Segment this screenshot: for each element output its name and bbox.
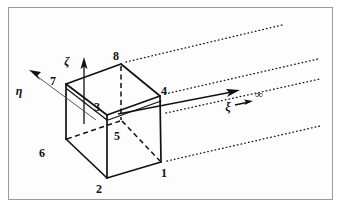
edge-3-7 (66, 84, 107, 115)
xi-to-infinity-arrow (235, 100, 253, 106)
edge-4-3 (107, 96, 160, 115)
node-label-7: 7 (50, 74, 56, 88)
node-label-6: 6 (39, 146, 45, 160)
dotted-line-upper-middle (165, 59, 318, 94)
edge-inner-7-3 (67, 89, 107, 120)
eta-axis-label: η (16, 84, 23, 98)
xi-axis-line (118, 92, 232, 114)
cube-visible-edges (66, 64, 161, 178)
zeta-axis (81, 57, 88, 124)
figure-canvas: 8 7 4 3 5 6 1 2 ζ η ξ ∞ (0, 0, 342, 209)
xi-axis (118, 89, 240, 114)
eta-axis-line (34, 74, 96, 120)
edge-5-1 (122, 121, 160, 161)
edge-2-1 (107, 162, 161, 178)
edge-8-4 (121, 64, 160, 96)
dotted-line-bottom (167, 126, 320, 161)
edge-6-2 (66, 139, 107, 178)
zeta-axis-label: ζ (64, 54, 70, 68)
node-label-2: 2 (96, 182, 102, 196)
infinity-label: ∞ (255, 88, 263, 100)
node-label-5: 5 (114, 129, 120, 143)
node-label-3: 3 (94, 100, 100, 114)
eta-axis-arrowhead (29, 70, 41, 80)
cube-element-diagram: 8 7 4 3 5 6 1 2 ζ η ξ ∞ (0, 0, 342, 209)
node-label-4: 4 (161, 84, 167, 98)
edge-7-8 (66, 64, 121, 84)
edge-6-5 (67, 121, 120, 139)
xi-axis-label: ξ (225, 100, 231, 114)
dotted-line-top (126, 25, 282, 62)
node-label-1: 1 (161, 166, 167, 180)
dotted-line-lower-middle (166, 79, 320, 113)
node-label-8: 8 (113, 49, 119, 63)
